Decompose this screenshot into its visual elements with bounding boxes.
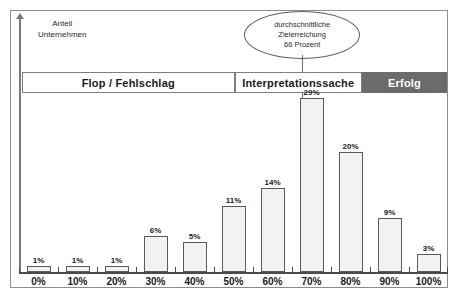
bar-slot: 20% — [331, 0, 370, 272]
x-axis-tick — [331, 267, 332, 272]
bar — [144, 236, 168, 272]
bar-value-label: 20% — [342, 142, 358, 151]
x-axis-tick — [447, 267, 448, 272]
x-axis-tick-label: 40% — [184, 276, 204, 287]
bar-slot: 1% — [58, 0, 97, 272]
x-axis-tick-label: 70% — [301, 276, 321, 287]
x-axis-tick-label: 80% — [340, 276, 360, 287]
bar-slot: 5% — [175, 0, 214, 272]
bar-value-label: 3% — [423, 244, 435, 253]
bar-slot: 1% — [19, 0, 58, 272]
x-axis-tick-label: 100% — [416, 276, 442, 287]
x-axis-tick-label: 90% — [379, 276, 399, 287]
x-axis-tick — [175, 267, 176, 272]
bar — [183, 242, 207, 272]
bar-slot: 6% — [136, 0, 175, 272]
bar-value-label: 1% — [111, 256, 123, 265]
bar — [66, 266, 90, 272]
x-axis-tick — [97, 267, 98, 272]
x-axis-tick — [292, 267, 293, 272]
bar-slot: 14% — [253, 0, 292, 272]
bar-value-label: 9% — [384, 208, 396, 217]
bar — [378, 218, 402, 272]
x-axis-tick — [409, 267, 410, 272]
bar-series: 1%1%1%6%5%11%14%29%20%9%3% — [19, 0, 448, 272]
bar-slot: 1% — [97, 0, 136, 272]
bar-slot: 29% — [292, 0, 331, 272]
x-axis-tick-labels: 0%10%20%30%40%50%60%70%80%90%100% — [19, 276, 448, 290]
bar — [222, 206, 246, 272]
bar-value-label: 1% — [33, 256, 45, 265]
x-axis-tick-label: 50% — [223, 276, 243, 287]
bar-value-label: 5% — [189, 232, 201, 241]
bar-slot: 9% — [370, 0, 409, 272]
x-axis-tick-label: 10% — [67, 276, 87, 287]
x-axis-tick — [136, 267, 137, 272]
x-axis-tick — [370, 267, 371, 272]
bar — [339, 152, 363, 272]
bar-slot: 11% — [214, 0, 253, 272]
x-axis-tick-label: 20% — [106, 276, 126, 287]
chart-figure: Anteil Unternehmen durchschnittliche Zie… — [0, 0, 457, 307]
bar-value-label: 6% — [150, 226, 162, 235]
bar-slot: 3% — [409, 0, 448, 272]
x-axis-tick-label: 0% — [31, 276, 45, 287]
x-axis-tick — [58, 267, 59, 272]
bar-value-label: 29% — [303, 88, 319, 97]
x-axis-tick-label: 30% — [145, 276, 165, 287]
x-axis-line — [19, 272, 448, 274]
bar-value-label: 14% — [264, 178, 280, 187]
bar — [27, 266, 51, 272]
x-axis-tick-label: 60% — [262, 276, 282, 287]
bar-value-label: 11% — [226, 196, 242, 205]
x-axis-tick — [253, 267, 254, 272]
bar — [417, 254, 441, 272]
bar — [300, 98, 324, 272]
x-axis-tick — [19, 267, 20, 272]
bar — [261, 188, 285, 272]
bar — [105, 266, 129, 272]
x-axis-tick — [214, 267, 215, 272]
bar-value-label: 1% — [72, 256, 84, 265]
